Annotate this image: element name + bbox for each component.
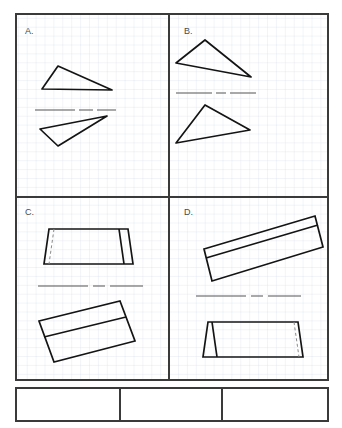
- answer-box-2[interactable]: [120, 388, 222, 421]
- answer-boxes-row: [16, 388, 328, 421]
- worksheet-figure: A. B. C. D: [0, 0, 342, 428]
- worksheet-page: A. B. C. D: [0, 0, 342, 428]
- quadrant-d-label: D.: [184, 207, 193, 217]
- quadrant-b-label: B.: [184, 26, 193, 36]
- answer-box-3[interactable]: [222, 388, 328, 421]
- quadrant-c-label: C.: [25, 207, 34, 217]
- quadrant-a-label: A.: [25, 26, 34, 36]
- answer-box-1[interactable]: [16, 388, 120, 421]
